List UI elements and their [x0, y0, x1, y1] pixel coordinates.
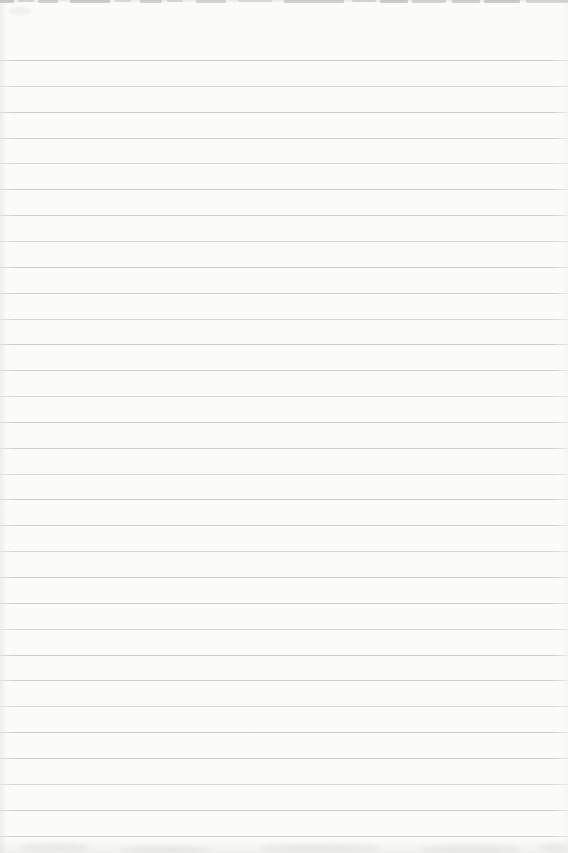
- ruled-line: [0, 215, 568, 216]
- ruled-line: [0, 680, 568, 681]
- ruled-line: [0, 241, 568, 242]
- ruled-line: [0, 629, 568, 630]
- ruled-line: [0, 267, 568, 268]
- top-edge-smudge: [526, 0, 568, 3]
- ruled-line: [0, 86, 568, 87]
- top-edge-smudge: [284, 0, 344, 3]
- ruled-line: [0, 758, 568, 759]
- ruled-line: [0, 293, 568, 294]
- top-edge-smudge: [18, 0, 34, 2]
- ruled-line: [0, 163, 568, 164]
- ruled-line: [0, 112, 568, 113]
- ruled-line: [0, 603, 568, 604]
- ruled-line: [0, 655, 568, 656]
- ruled-line: [0, 525, 568, 526]
- ruled-line: [0, 810, 568, 811]
- ruled-line: [0, 499, 568, 500]
- ruled-line: [0, 396, 568, 397]
- top-left-smudge: [8, 7, 32, 15]
- top-edge-smudge: [412, 0, 446, 3]
- bottom-edge-smudge: [120, 846, 210, 853]
- ruled-line: [0, 577, 568, 578]
- ruled-line: [0, 706, 568, 707]
- top-edge-smudge: [70, 0, 110, 3]
- ruled-line: [0, 60, 568, 61]
- notebook-page: [0, 0, 568, 853]
- ruled-line: [0, 836, 568, 837]
- ruled-line: [0, 732, 568, 733]
- top-edge-smudge: [352, 0, 376, 2]
- ruled-line: [0, 344, 568, 345]
- top-edge-smudge: [38, 0, 58, 3]
- top-edge-smudge: [238, 0, 272, 2]
- ruled-line: [0, 370, 568, 371]
- top-edge-smudge: [167, 0, 183, 2]
- ruled-line: [0, 422, 568, 423]
- ruled-line: [0, 189, 568, 190]
- top-edge-smudge: [0, 0, 14, 3]
- bottom-edge-smudge: [538, 843, 568, 851]
- left-edge-shadow: [0, 0, 6, 853]
- bottom-edge-smudge: [20, 843, 90, 851]
- bottom-edge-smudge: [260, 844, 380, 852]
- ruled-line: [0, 551, 568, 552]
- ruled-line: [0, 319, 568, 320]
- ruled-line: [0, 448, 568, 449]
- top-edge-smudge: [484, 0, 520, 3]
- ruled-line: [0, 784, 568, 785]
- bottom-edge-smudge: [420, 845, 520, 853]
- top-edge-smudge: [452, 0, 480, 3]
- ruled-line: [0, 474, 568, 475]
- top-edge-smudge: [115, 0, 131, 2]
- top-edge-smudge: [140, 0, 162, 3]
- top-edge-smudge: [380, 0, 408, 3]
- ruled-line: [0, 138, 568, 139]
- top-edge-smudge: [196, 0, 226, 3]
